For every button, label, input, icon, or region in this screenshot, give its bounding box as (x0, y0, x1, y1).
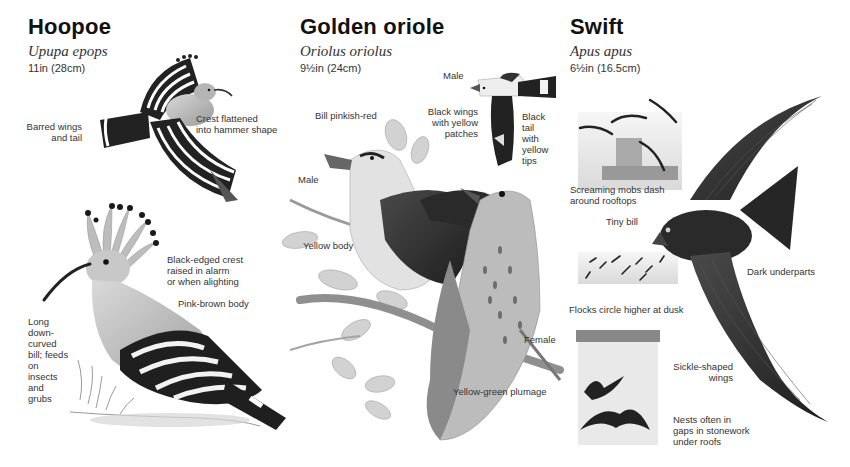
species-latin-swift: Apus apus (570, 43, 632, 60)
illustrations (0, 0, 850, 467)
hoopoe-standing-illustration (44, 203, 286, 430)
label-yellow-body: Yellow body (303, 240, 353, 251)
species-title-swift: Swift (570, 14, 624, 40)
label-long-bill: Long down- curved bill; feeds on insects… (28, 316, 68, 404)
label-tiny-bill: Tiny bill (606, 216, 638, 227)
species-size-hoopoe: 11in (28cm) (28, 62, 85, 74)
label-barred-wings: Barred wings and tail (10, 121, 82, 143)
label-black-wings: Black wings with yellow patches (420, 106, 478, 139)
label-crest-raised: Black-edged crest raised in alarm or whe… (167, 254, 243, 287)
label-female: Female (524, 334, 556, 345)
species-size-golden-oriole: 9½in (24cm) (300, 62, 361, 74)
label-screaming-mobs: Screaming mobs dash around rooftops (570, 184, 665, 206)
species-latin-hoopoe: Upupa epops (28, 43, 108, 60)
species-title-hoopoe: Hoopoe (28, 14, 111, 40)
label-crest-flattened: Crest flattened into hammer shape (196, 113, 277, 135)
species-title-golden-oriole: Golden oriole (300, 14, 444, 40)
label-pink-brown-body: Pink-brown body (178, 298, 249, 309)
label-black-tail: Black tail with yellow tips (522, 111, 548, 166)
label-nests: Nests often in gaps in stonework under r… (673, 414, 750, 447)
label-male-perched: Male (298, 174, 319, 185)
label-sickle-wings: Sickle-shaped wings (660, 361, 733, 383)
label-male-flying: Male (443, 70, 464, 81)
label-bill-pinkish-red: Bill pinkish-red (315, 110, 377, 121)
swift-rooftops-vignette (578, 100, 682, 190)
label-yellow-green-plumage: Yellow-green plumage (453, 386, 547, 397)
species-latin-golden-oriole: Oriolus oriolus (300, 43, 392, 60)
label-flocks-circle: Flocks circle higher at dusk (569, 304, 684, 315)
species-size-swift: 6½in (16.5cm) (570, 62, 640, 74)
swift-nests-vignette (576, 330, 660, 445)
swift-flocks-vignette (578, 252, 678, 284)
label-dark-underparts: Dark underparts (747, 266, 815, 277)
